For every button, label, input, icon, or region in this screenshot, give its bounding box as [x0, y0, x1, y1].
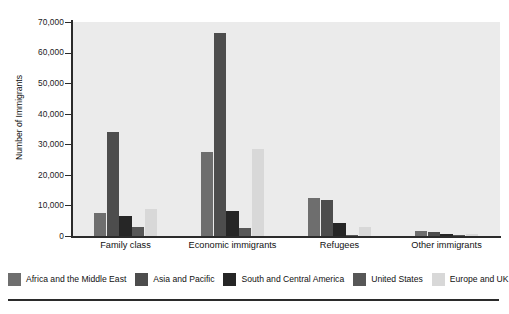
chart-legend: Africa and the Middle EastAsia and Pacif… [8, 270, 503, 288]
y-axis-tick-mark [65, 236, 72, 237]
legend-label: Africa and the Middle East [26, 274, 126, 284]
x-axis-line [71, 236, 501, 238]
legend-item: United States [353, 273, 423, 286]
y-axis-tick-mark [65, 83, 72, 84]
bar [107, 132, 119, 236]
bar [201, 152, 213, 236]
bar [415, 231, 427, 236]
legend-label: Europe and UK [450, 274, 509, 284]
bar [321, 200, 333, 236]
bar [440, 234, 452, 236]
bar [428, 232, 440, 236]
bar [239, 228, 251, 236]
bar [333, 223, 345, 236]
y-axis-tick-mark [65, 53, 72, 54]
x-axis-category-label: Economic immigrants [173, 240, 293, 251]
legend-item: Africa and the Middle East [8, 273, 126, 286]
bar [226, 211, 238, 236]
y-axis-tick-label: 10,000 [16, 201, 64, 209]
y-axis-tick-mark [65, 22, 72, 23]
x-axis-category-label: Family class [66, 240, 186, 251]
legend-swatch-icon [432, 273, 445, 286]
legend-label: South and Central America [241, 274, 344, 284]
bar [252, 149, 264, 236]
y-axis-tick-mark [65, 114, 72, 115]
y-axis-title: Number of Immigrants [15, 48, 24, 188]
x-axis-category-label: Other immigrants [387, 240, 507, 251]
bar [346, 235, 358, 236]
legend-item: Europe and UK [432, 273, 509, 286]
bar [453, 235, 465, 236]
legend-swatch-icon [8, 273, 21, 286]
bar [119, 216, 131, 236]
bar [466, 234, 478, 236]
legend-label: Asia and Pacific [153, 274, 214, 284]
bars-layer [72, 22, 500, 236]
bar [145, 209, 157, 236]
bar [214, 33, 226, 236]
bar [94, 213, 106, 236]
y-axis-tick-label: 70,000 [16, 18, 64, 26]
bar [132, 227, 144, 236]
legend-label: United States [371, 274, 423, 284]
bar [359, 227, 371, 236]
legend-swatch-icon [353, 273, 366, 286]
x-axis-category-label: Refugees [280, 240, 400, 251]
legend-swatch-icon [135, 273, 148, 286]
legend-item: Asia and Pacific [135, 273, 214, 286]
y-axis-tick-label: 0 [16, 232, 64, 240]
x-axis-category-labels: Family classEconomic immigrantsRefugeesO… [72, 240, 500, 256]
y-axis-tick-mark [65, 205, 72, 206]
bottom-divider-rule [8, 299, 499, 301]
legend-item: South and Central America [223, 273, 344, 286]
y-axis-tick-mark [65, 144, 72, 145]
legend-swatch-icon [223, 273, 236, 286]
bar [308, 198, 320, 236]
y-axis-tick-mark [65, 175, 72, 176]
